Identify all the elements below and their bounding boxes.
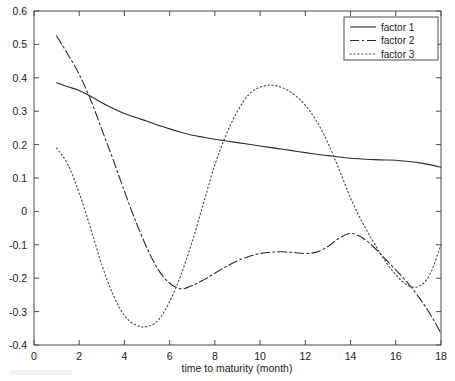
y-tick-label: -0.2 — [9, 272, 27, 284]
chart-legend[interactable]: factor 1factor 2factor 3 — [344, 17, 438, 60]
chart-figure: 024681012141618 -0.4-0.3-0.2-0.100.10.20… — [0, 0, 455, 381]
y-tick-label: -0.4 — [9, 339, 27, 351]
y-tick-label: -0.3 — [9, 306, 27, 318]
x-tick-label: 6 — [167, 350, 173, 362]
y-tick-label: 0.5 — [12, 38, 27, 50]
x-tick-label: 12 — [299, 350, 311, 362]
y-tick-label: 0.6 — [12, 5, 27, 17]
legend-label-2: factor 2 — [381, 35, 415, 46]
x-axis-label: time to maturity (month) — [182, 362, 293, 374]
legend-label-3: factor 3 — [381, 49, 415, 60]
legend-label-1: factor 1 — [381, 22, 415, 33]
y-tick-label: 0 — [21, 205, 27, 217]
x-tick-label: 2 — [76, 350, 82, 362]
x-tick-label: 14 — [345, 350, 357, 362]
y-tick-label: 0.2 — [12, 139, 27, 151]
y-tick-label: -0.1 — [9, 239, 27, 251]
x-tick-label: 18 — [435, 350, 447, 362]
y-tick-label: 0.1 — [12, 172, 27, 184]
x-tick-label: 0 — [31, 350, 37, 362]
x-tick-label: 8 — [212, 350, 218, 362]
scan-artifact-mark — [10, 370, 72, 375]
line-chart: 024681012141618 -0.4-0.3-0.2-0.100.10.20… — [0, 0, 455, 381]
x-tick-label: 4 — [122, 350, 128, 362]
y-tick-label: 0.4 — [12, 72, 27, 84]
x-tick-label: 10 — [254, 350, 266, 362]
x-tick-label: 16 — [390, 350, 402, 362]
y-tick-label: 0.3 — [12, 105, 27, 117]
